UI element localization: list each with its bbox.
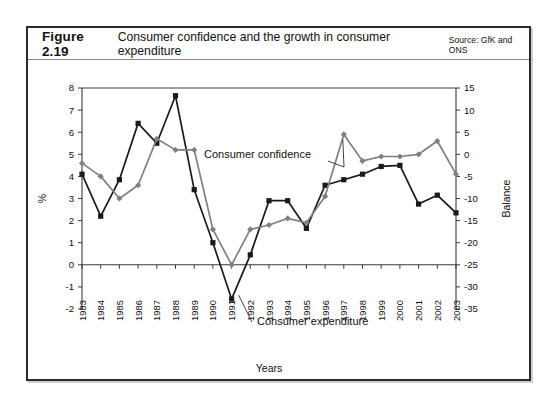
y-axis-title-left: % [36,194,48,203]
y-tick-label-left: -1 [65,281,74,292]
x-tick-label: 1987 [151,300,162,321]
annotation-consumer-expenditure: Consumer expenditure [257,315,368,327]
y-tick-label-right: -10 [464,193,478,204]
x-tick-label: 1991 [226,300,237,321]
x-tick-label: 2002 [432,300,443,321]
x-tick-label: 1984 [95,300,106,321]
figure-source: Source: GfK and ONS [449,35,529,55]
series-marker [229,296,234,301]
series-marker [323,183,328,188]
series-marker [397,153,403,159]
y-tick-label-right: 10 [464,105,475,116]
series-marker [98,214,103,219]
y-tick-label-right: 0 [464,149,469,160]
x-tick-label: 1983 [77,300,88,321]
series-marker [285,198,290,203]
series-marker [248,252,253,257]
y-tick-label-left: 6 [69,127,74,138]
annotation-consumer-confidence: Consumer confidence [204,148,311,160]
y-tick-label-right: -15 [464,215,478,226]
y-tick-label-left: 8 [69,82,74,93]
figure-header: Figure 2.19 Consumer confidence and the … [28,28,529,60]
series-marker [285,215,291,221]
x-tick-label: 2001 [413,300,424,321]
x-tick-label: 1999 [376,300,387,321]
figure-box: Figure 2.19 Consumer confidence and the … [26,26,531,381]
y-tick-label-right: -25 [464,259,478,270]
series-marker [79,172,84,177]
series-marker [117,177,122,182]
chart-plot-area: -2-1012345678%-35-30-25-20-15-10-5051015… [28,60,529,381]
y-tick-label-left: 2 [69,215,74,226]
y-tick-label-left: 7 [69,105,74,116]
series-marker [378,153,384,159]
screenshot-root: Figure 2.19 Consumer confidence and the … [0,0,557,410]
x-tick-label: 1986 [133,300,144,321]
figure-title: Consumer confidence and the growth in co… [118,30,440,58]
y-tick-label-right: -20 [464,237,478,248]
y-tick-label-left: 1 [69,237,74,248]
series-marker [229,262,235,268]
series-marker [453,210,458,215]
series-marker [304,226,309,231]
series-marker [210,226,216,232]
y-tick-label-left: 4 [69,171,75,182]
y-tick-label-right: -5 [464,171,473,182]
series-marker [173,93,178,98]
series-marker [210,240,215,245]
y-tick-label-right: 5 [464,127,469,138]
series-marker [397,163,402,168]
x-tick-label: 1985 [114,300,125,321]
series-marker [435,193,440,198]
y-tick-label-left: 3 [69,193,74,204]
series-marker [416,201,421,206]
y-tick-label-left: 0 [69,259,74,270]
x-tick-label: 1988 [170,300,181,321]
series-marker [136,121,141,126]
series-marker [247,226,253,232]
x-tick-label: 1989 [189,300,200,321]
x-tick-label: 2000 [394,300,405,321]
line-chart: -2-1012345678%-35-30-25-20-15-10-5051015… [28,60,529,381]
series-marker [191,147,197,153]
x-tick-label: 2003 [451,300,462,321]
x-tick-label: 1990 [207,300,218,321]
y-tick-label-right: -35 [464,303,478,314]
y-tick-label-left: 5 [69,149,74,160]
series-marker [192,187,197,192]
series-marker [266,198,271,203]
series-marker [266,222,272,228]
series-marker [341,177,346,182]
y-axis-title-right: Balance [500,179,512,217]
series-marker [360,172,365,177]
y-tick-label-right: 15 [464,82,475,93]
figure-number: Figure 2.19 [42,29,111,59]
x-axis-title: Years [256,362,282,374]
y-tick-label-right: -30 [464,281,478,292]
y-tick-label-left: -2 [65,303,74,314]
series-marker [379,164,384,169]
